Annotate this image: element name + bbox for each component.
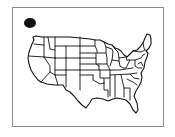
- state-lines-west: [34, 44, 44, 45]
- us-map: [0, 0, 175, 137]
